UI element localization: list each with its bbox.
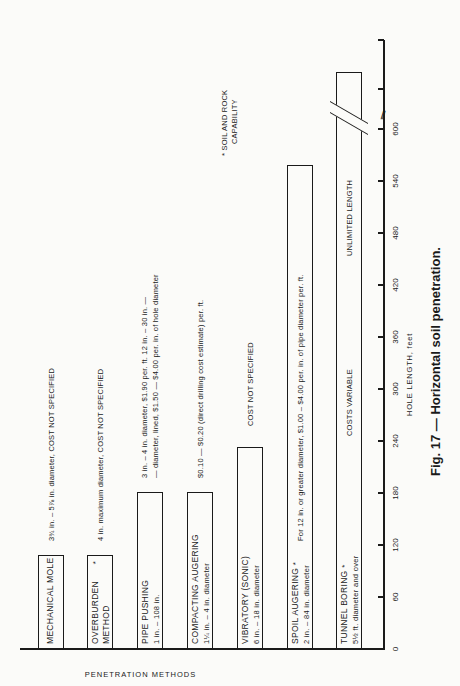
tick-label-0: 0 xyxy=(391,634,400,664)
tick-420 xyxy=(378,285,384,287)
vibratory-name: VIBRATORY (SONIC) xyxy=(240,556,250,644)
tick-label-180: 180 xyxy=(391,478,400,508)
spoil-augering-size: 2 in. – 84 in. diameter xyxy=(302,565,311,644)
tick-0 xyxy=(378,649,384,651)
star-icon: * xyxy=(340,564,349,567)
star-icon: * xyxy=(91,561,100,564)
tick-label-60: 60 xyxy=(391,582,400,612)
overburden-line2: METHOD xyxy=(101,605,111,644)
tick-label-360: 360 xyxy=(391,322,400,352)
legend-soil-rock: * SOIL AND ROCK CAPABILITY xyxy=(220,90,240,156)
x-axis-title: HOLE LENGTH, feet xyxy=(405,333,414,416)
length-axis-line xyxy=(383,40,385,650)
pipe-pushing-size: 1 in. – 108 in. xyxy=(152,594,161,644)
tick-240 xyxy=(378,441,384,443)
tick-540 xyxy=(378,181,384,183)
tick-label-540: 540 xyxy=(391,166,400,196)
note-tunnel-costs: COSTS VARIABLE xyxy=(345,369,354,436)
tick-end xyxy=(378,40,384,42)
tick-label-120: 120 xyxy=(391,530,400,560)
tick-label-600: 600 xyxy=(391,114,400,144)
label-vibratory-sonic: VIBRATORY (SONIC) 6 in. – 18 in. diamete… xyxy=(240,556,262,644)
compacting-augering-name: COMPACTING AUGERING xyxy=(190,534,200,644)
tick-300 xyxy=(378,389,384,391)
note-compacting-augering: $0.10 — $0.20 (direct drilling cost esti… xyxy=(196,300,205,478)
label-tunnel-boring: TUNNEL BORING * 5½ ft. diameter and over xyxy=(339,556,361,645)
tick-label-300: 300 xyxy=(391,374,400,404)
label-spoil-augering: SPOIL AUGERING * 2 in. – 84 in. diameter xyxy=(290,562,312,644)
star-icon: * xyxy=(220,153,229,156)
note-mechanical-mole: 3¾ in. – 5⅞ in. diameter, COST NOT SPECI… xyxy=(47,368,56,541)
label-compacting-augering: COMPACTING AUGERING 1¼ in. – 4 in. diame… xyxy=(190,534,212,644)
spoil-augering-name: SPOIL AUGERING xyxy=(290,568,300,644)
axis-break-icon: ⫽ xyxy=(381,110,385,122)
tick-label-480: 480 xyxy=(391,218,400,248)
tunnel-boring-name: TUNNEL BORING xyxy=(339,571,349,644)
tick-480 xyxy=(378,233,384,235)
tick-360 xyxy=(378,337,384,339)
note-pipe-pushing-2: — diameter, lined, $1.50 — $4.00 per. in… xyxy=(151,274,160,478)
note-pipe-pushing-1: 3 in. – 4 in. diameter, $1.90 per. ft. 1… xyxy=(140,297,149,478)
tick-label-240: 240 xyxy=(391,426,400,456)
label-pipe-pushing: PIPE PUSHING 1 in. – 108 in. xyxy=(140,580,162,644)
figure-page: ⫽ 0 60 120 180 240 300 360 420 480 540 6… xyxy=(0,0,460,686)
pipe-pushing-name: PIPE PUSHING xyxy=(140,580,150,644)
figure-caption: Fig. 17 — Horizontal soil penetration. xyxy=(428,247,443,476)
y-axis-title: PENETRATION METHODS xyxy=(85,670,196,679)
tick-600 xyxy=(378,129,384,131)
note-overburden: 4 in. maximum diameter, COST NOT SPECIFI… xyxy=(96,369,105,541)
rotated-chart: ⫽ 0 60 120 180 240 300 360 420 480 540 6… xyxy=(0,0,460,686)
tick-beyond xyxy=(378,89,384,91)
compacting-augering-size: 1¼ in. – 4 in. diameter xyxy=(202,563,211,644)
tick-60 xyxy=(378,597,384,599)
overburden-line1: OVERBURDEN xyxy=(90,581,100,644)
tick-120 xyxy=(378,545,384,547)
vibratory-size: 6 in. – 18 in. diameter xyxy=(252,565,261,644)
tick-180 xyxy=(378,493,384,495)
label-overburden: OVERBURDEN * METHOD xyxy=(90,561,112,644)
legend-line1: SOIL AND ROCK xyxy=(220,90,229,151)
label-mechanical-mole: MECHANICAL MOLE xyxy=(45,558,56,644)
note-spoil-augering: For 12 in. or greater diameter, $1.00 – … xyxy=(296,274,305,541)
note-vibratory: COST NOT SPECIFIED xyxy=(246,342,255,426)
note-tunnel-length: UNLIMITED LENGTH xyxy=(345,180,354,256)
star-icon: * xyxy=(291,562,300,565)
tick-label-420: 420 xyxy=(391,270,400,300)
tunnel-boring-size: 5½ ft. diameter and over xyxy=(351,556,360,645)
legend-line2: CAPABILITY xyxy=(230,99,239,144)
